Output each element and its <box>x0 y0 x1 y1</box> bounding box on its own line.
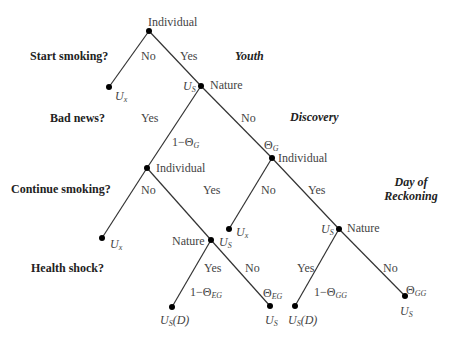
node-ind-left <box>144 165 150 171</box>
edge-natleft-yes-prob: 1−ΘEG <box>190 286 222 300</box>
node-ind-right-label: Individual <box>278 152 327 164</box>
node-root-label: Individual <box>148 16 197 28</box>
edge-indleft-no: No <box>141 184 156 196</box>
question-health-shock: Health shock? <box>31 262 104 274</box>
leaf-usd-1-label: US(D) <box>160 314 189 328</box>
edge-natleft-yes: Yes <box>204 262 221 274</box>
edge-nature1-no: No <box>241 112 256 124</box>
edge-root-no: No <box>141 50 156 62</box>
leaf-us-1 <box>267 303 273 309</box>
nature-left-payoff: US <box>219 236 232 250</box>
node-nature1-label: Nature <box>210 79 243 91</box>
stage-discovery: Discovery <box>290 110 339 124</box>
stage-youth: Youth <box>235 49 264 63</box>
leaf-ux-3-label: Ux <box>236 226 248 240</box>
edge-natright-yes-prob: 1−ΘGG <box>314 286 347 300</box>
edge-natleft-no: No <box>245 262 260 274</box>
edge-nature1-yes: Yes <box>141 112 158 124</box>
node-nature-1 <box>198 83 204 89</box>
edge-indright-no: No <box>261 184 276 196</box>
edge-nature1-no-prob: ΘG <box>264 139 278 153</box>
edge-natleft-no-prob: ΘEG <box>263 287 282 301</box>
leaf-us-2-label: US <box>400 305 413 319</box>
edge-nature1-yes-prob: 1−ΘG <box>172 136 199 150</box>
node-ind-right <box>269 155 275 161</box>
edge-natright-yes: Yes <box>297 262 314 274</box>
edge-natright-no-prob: ΘGG <box>406 284 426 298</box>
question-start-smoking: Start smoking? <box>30 50 108 62</box>
leaf-usd-2 <box>292 303 298 309</box>
edge-indright-yes: Yes <box>308 184 325 196</box>
node-nature-left-label: Nature <box>172 235 205 247</box>
node-ind-left-label: Individual <box>156 162 205 174</box>
question-continue-smoking: Continue smoking? <box>11 183 111 195</box>
nature-right-payoff: US <box>321 223 334 237</box>
leaf-ux-2 <box>99 235 105 241</box>
node-nature-right-label: Nature <box>347 222 380 234</box>
question-bad-news: Bad news? <box>50 112 105 124</box>
node-nature-left <box>208 237 214 243</box>
leaf-ux-1 <box>106 84 112 90</box>
edge-root-yes: Yes <box>180 50 197 62</box>
stage-day-of-reckoning: Day of Reckoning <box>378 175 444 204</box>
leaf-ux-1-label: Ux <box>115 90 127 104</box>
leaf-ux-3 <box>226 226 232 232</box>
leaf-usd-1 <box>169 304 175 310</box>
leaf-usd-2-label: US(D) <box>288 314 317 328</box>
edge-natright-no: No <box>383 262 398 274</box>
leaf-ux-2-label: Ux <box>110 238 122 252</box>
node-nature-right <box>336 226 342 232</box>
nature1-payoff: US <box>183 80 196 94</box>
edge-indleft-yes: Yes <box>203 184 220 196</box>
leaf-us-1-label: US <box>265 314 278 328</box>
